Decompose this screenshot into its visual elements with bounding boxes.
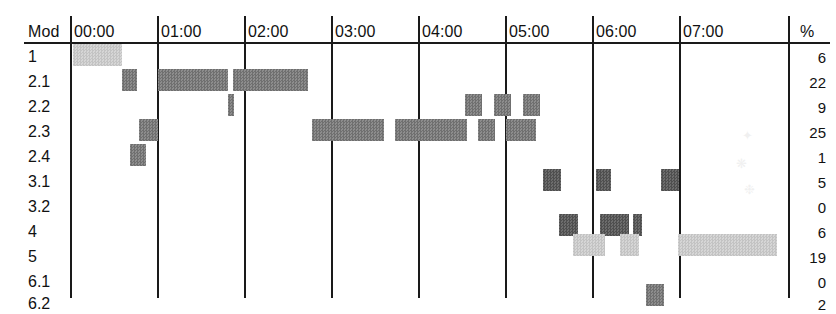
activity-bar-2-2-3 xyxy=(523,94,540,116)
row-label-2-2: 2.2 xyxy=(28,99,50,115)
gridline-0200 xyxy=(244,16,246,298)
row-label-2-1: 2.1 xyxy=(28,74,50,90)
time-tick-label-0400: 04:00 xyxy=(422,24,463,40)
activity-bar-4-0 xyxy=(559,214,578,236)
percent-value-2-3: 25 xyxy=(809,125,826,140)
percent-value-2-2: 9 xyxy=(818,100,826,115)
percent-value-4: 6 xyxy=(818,225,826,240)
time-tick-label-0600: 06:00 xyxy=(596,24,637,40)
activity-bar-2-3-2 xyxy=(395,119,467,141)
percent-value-2-1: 22 xyxy=(809,75,826,90)
row-label-6-1: 6.1 xyxy=(28,274,50,290)
percent-value-5: 19 xyxy=(809,250,826,265)
row-label-5: 5 xyxy=(28,249,37,265)
row-label-2-3: 2.3 xyxy=(28,124,50,140)
activity-bar-2-1-1 xyxy=(158,69,228,91)
activity-bar-2-2-2 xyxy=(494,94,511,116)
activity-bar-3-1-2 xyxy=(661,169,679,191)
activity-bar-5-2 xyxy=(678,234,777,256)
activity-bar-1-0 xyxy=(73,44,122,66)
row-label-3-2: 3.2 xyxy=(28,199,50,215)
activity-bar-2-2-1 xyxy=(465,94,482,116)
activity-bar-2-3-0 xyxy=(139,119,158,141)
row-label-6-2: 6.2 xyxy=(28,296,50,312)
activity-bar-2-1-2 xyxy=(233,69,308,91)
activity-bar-5-0 xyxy=(573,234,605,256)
gridline-0500 xyxy=(505,16,507,298)
row-label-4: 4 xyxy=(28,224,37,240)
percent-value-3-2: 0 xyxy=(818,200,826,215)
time-tick-label-0200: 02:00 xyxy=(248,24,289,40)
percent-value-1: 6 xyxy=(818,50,826,65)
activity-bar-2-3-1 xyxy=(312,119,384,141)
activity-bar-4-1 xyxy=(600,214,629,236)
gridline-0000 xyxy=(70,16,72,298)
activity-bar-3-1-0 xyxy=(543,169,561,191)
header-underline-left xyxy=(24,42,790,44)
activity-bar-5-1 xyxy=(620,234,639,256)
row-label-1: 1 xyxy=(28,49,37,65)
percent-value-6-2: 2 xyxy=(818,297,826,312)
header-underline-percent xyxy=(790,42,830,44)
gridline-0100 xyxy=(157,16,159,298)
activity-bar-2-3-4 xyxy=(506,119,536,141)
row-label-3-1: 3.1 xyxy=(28,174,50,190)
activity-bar-2-2-0 xyxy=(228,94,234,116)
percent-value-6-1: 0 xyxy=(818,275,826,290)
activity-bar-6-2-0 xyxy=(646,284,664,306)
percent-value-3-1: 5 xyxy=(818,175,826,190)
scan-artifact: ❉ xyxy=(744,182,755,197)
activity-bar-2-1-0 xyxy=(122,69,137,91)
percent-value-2-4: 1 xyxy=(818,150,826,165)
activity-bar-4-2 xyxy=(633,214,642,236)
activity-bar-2-4-0 xyxy=(130,144,146,166)
activity-bar-3-1-1 xyxy=(596,169,611,191)
column-header-percent: % xyxy=(800,24,814,40)
column-header-mod: Mod xyxy=(28,24,59,40)
time-tick-label-0700: 07:00 xyxy=(683,24,724,40)
gridline-0300 xyxy=(331,16,333,298)
time-tick-label-0000: 00:00 xyxy=(74,24,115,40)
timeline-chart: Mod 00:00 01:00 02:00 03:00 04:00 05:00 … xyxy=(0,0,836,314)
activity-bar-2-3-3 xyxy=(478,119,495,141)
time-tick-label-0300: 03:00 xyxy=(335,24,376,40)
gridline-percent-divider xyxy=(788,16,790,298)
gridline-0400 xyxy=(418,16,420,298)
time-tick-label-0500: 05:00 xyxy=(509,24,550,40)
scan-artifact: ❋ xyxy=(736,156,747,171)
time-tick-label-0100: 01:00 xyxy=(161,24,202,40)
scan-artifact: ✦ xyxy=(742,128,753,143)
row-label-2-4: 2.4 xyxy=(28,149,50,165)
